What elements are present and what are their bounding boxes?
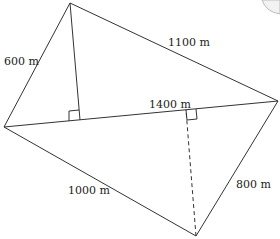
height-bottom-dashed — [186, 110, 196, 236]
height-top-solid — [70, 3, 80, 120]
label-diagonal: 1400 m — [149, 98, 191, 111]
right-angle-marker-top — [69, 110, 79, 121]
side-top-right — [70, 3, 278, 101]
label-bottom-right-side: 800 m — [236, 178, 271, 191]
label-top-right-side: 1100 m — [168, 36, 210, 49]
quadrilateral-diagram: 600 m 1100 m 1400 m 1000 m 800 m — [0, 0, 280, 239]
label-top-left-side: 600 m — [4, 55, 39, 68]
diagonal-1400 — [4, 101, 278, 127]
side-bottom-right — [196, 101, 278, 236]
corner-blob-decoration — [262, 0, 280, 14]
side-bottom-left — [4, 127, 196, 236]
label-bottom-left-side: 1000 m — [68, 184, 110, 197]
